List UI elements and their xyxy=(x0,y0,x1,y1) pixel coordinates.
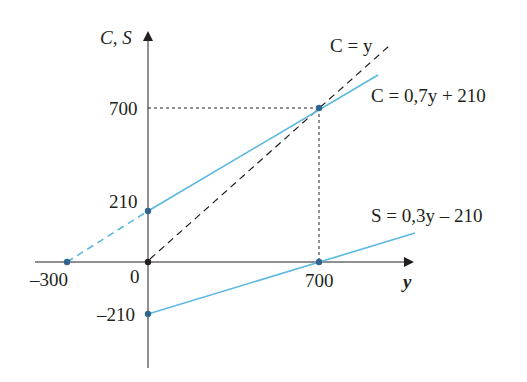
tick-0: 0 xyxy=(130,266,140,287)
tick-neg300: –300 xyxy=(29,269,68,290)
line-c-equals-y xyxy=(150,46,389,259)
line-savings xyxy=(148,233,415,314)
point-origin xyxy=(145,259,151,265)
consumption-savings-chart: C, S y 700 210 –210 –300 0 700 C = y C =… xyxy=(0,0,527,382)
tick-210: 210 xyxy=(109,191,138,212)
line-consumption-dashed xyxy=(67,211,148,262)
point-700-x xyxy=(316,259,322,265)
tick-neg210: –210 xyxy=(96,304,135,325)
point-210 xyxy=(145,208,151,214)
x-axis-label: y xyxy=(401,271,412,292)
point-neg300 xyxy=(64,259,70,265)
label-consumption: C = 0,7y + 210 xyxy=(371,85,486,106)
label-c-equals-y: C = y xyxy=(330,35,373,56)
chart-canvas: C, S y 700 210 –210 –300 0 700 C = y C =… xyxy=(0,0,527,382)
tick-700-y: 700 xyxy=(109,98,138,119)
y-axis-label: C, S xyxy=(100,27,132,48)
label-savings: S = 0,3y – 210 xyxy=(371,205,483,226)
line-consumption xyxy=(148,75,378,211)
point-neg210 xyxy=(145,311,151,317)
point-equilibrium xyxy=(316,105,322,111)
tick-700-x: 700 xyxy=(305,270,334,291)
